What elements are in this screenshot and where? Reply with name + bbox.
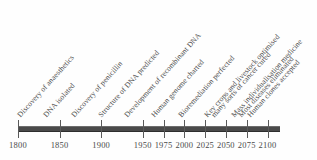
- axis-year-label: 1950: [134, 140, 152, 150]
- axis-year-label: 2025: [196, 140, 214, 150]
- axis-tick: [205, 120, 206, 138]
- axis-tick: [143, 120, 144, 138]
- axis-year-label: 2075: [238, 140, 256, 150]
- axis-tick: [60, 120, 61, 138]
- axis-tick: [18, 120, 19, 138]
- axis-year-label: 2050: [217, 140, 235, 150]
- axis-tick: [164, 120, 165, 138]
- axis-tick: [268, 120, 269, 138]
- axis-year-label: 2100: [259, 140, 277, 150]
- axis-tick: [247, 120, 248, 138]
- axis-year-label: 1800: [9, 140, 27, 150]
- timeline-axis-bar: [18, 126, 280, 132]
- axis-year-label: 1900: [92, 140, 110, 150]
- axis-year-label: 1975: [155, 140, 173, 150]
- axis-year-label: 1850: [51, 140, 69, 150]
- axis-tick: [101, 120, 102, 138]
- axis-tick: [226, 120, 227, 138]
- axis-tick: [184, 120, 185, 138]
- axis-year-label: 2000: [175, 140, 193, 150]
- timeline-figure: Discovery of anaestheticsDNA isolatedDis…: [0, 0, 317, 160]
